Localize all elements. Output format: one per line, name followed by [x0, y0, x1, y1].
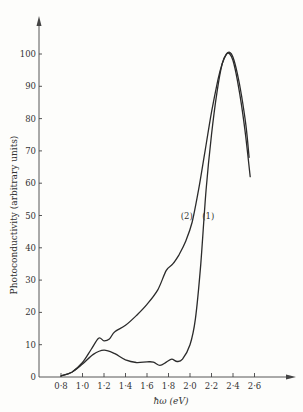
y-tick-label: 10	[25, 340, 36, 350]
x-tick-label: 2·2	[205, 381, 219, 391]
x-tick-label: 1·8	[162, 381, 176, 391]
x-tick-label: 1·2	[97, 381, 111, 391]
photoconductivity-chart: 0102030405060708090100 0·81·01·21·41·61·…	[0, 0, 303, 412]
x-tick-label: 2·0	[183, 381, 197, 391]
y-tick-label: 40	[25, 243, 36, 253]
x-tick-label: 1·0	[76, 381, 90, 391]
x-tick-label: 2·4	[226, 381, 240, 391]
y-tick-label: 0	[31, 372, 36, 382]
curve-label-1: (1)	[202, 211, 214, 221]
y-tick-label: 50	[25, 211, 36, 221]
x-tick-label: 1·6	[140, 381, 154, 391]
y-tick-label: 90	[25, 81, 36, 91]
x-tick-label: 0·8	[54, 381, 68, 391]
x-axis-arrow-icon	[286, 375, 296, 380]
y-tick-label: 100	[20, 49, 36, 59]
curve-label-2: (2)	[181, 211, 193, 221]
y-axis-arrow-icon	[37, 16, 42, 26]
x-tick-label: 2·6	[248, 381, 262, 391]
x-tick-label: 1·4	[119, 381, 133, 391]
x-axis: 0·81·01·21·41·61·82·02·22·42·6	[39, 373, 296, 391]
y-axis: 0102030405060708090100	[20, 16, 42, 382]
data-curves	[61, 52, 250, 376]
y-tick-label: 80	[25, 114, 36, 124]
curve-labels: (1)(2)	[181, 211, 215, 221]
y-tick-label: 70	[25, 146, 36, 156]
y-axis-label: Photoconductivity (arbitrary units)	[9, 136, 19, 295]
x-axis-label: ħω (eV)	[154, 396, 189, 406]
curve-2	[61, 52, 249, 376]
y-tick-label: 30	[25, 275, 36, 285]
y-tick-label: 60	[25, 178, 36, 188]
y-tick-label: 20	[25, 307, 36, 317]
curve-1	[61, 53, 250, 376]
